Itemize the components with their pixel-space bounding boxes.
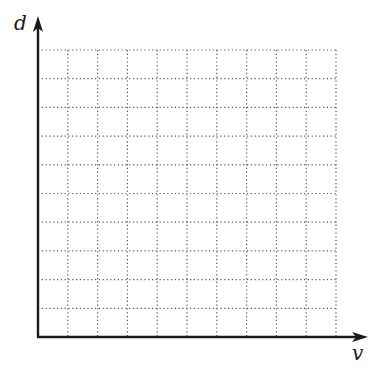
x-axis-label: v bbox=[352, 341, 364, 365]
x-axis bbox=[37, 332, 368, 342]
grid bbox=[38, 50, 336, 337]
blank-graph: d v bbox=[0, 0, 391, 388]
y-axis-label: d bbox=[14, 11, 27, 35]
y-axis bbox=[33, 16, 43, 337]
